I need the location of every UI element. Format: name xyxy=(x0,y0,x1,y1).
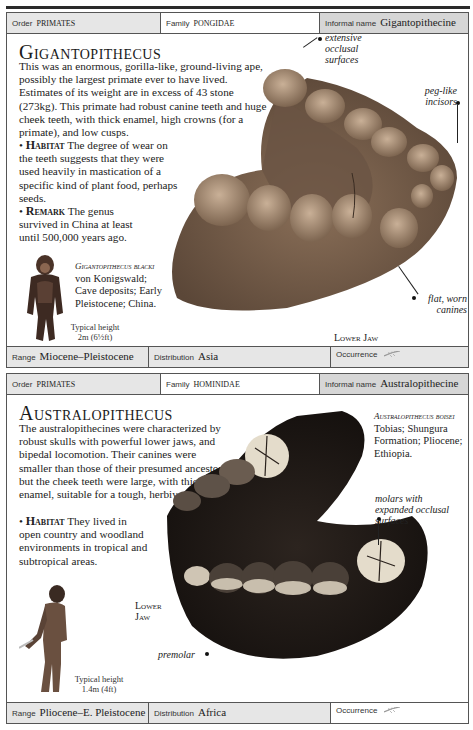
informal-name-value: Australopithecine xyxy=(380,377,458,389)
family-value: Hominidae xyxy=(194,377,240,389)
range-label: Range xyxy=(12,709,36,718)
order-value: Primates xyxy=(36,377,75,389)
remark-label: Remark xyxy=(26,204,65,218)
lower-jaw-label: Lower Jaw xyxy=(334,332,378,343)
informal-name-cell: Informal name Australopithecine xyxy=(319,374,468,394)
australopithecus-figure-image xyxy=(19,584,74,696)
distribution-value: Asia xyxy=(198,350,218,362)
typical-height: Typical height 2m (6½ft) xyxy=(65,322,125,342)
range-cell: Range Pliocene–E. Pleistocene xyxy=(7,703,148,723)
australopithecus-lower-jaw-image xyxy=(167,406,437,671)
header-row: Order Primates Family Pongidae Informal … xyxy=(7,13,468,34)
order-cell: Order Primates xyxy=(7,13,160,33)
occurrence-label: Occurrence xyxy=(336,706,377,715)
top-rule xyxy=(6,6,470,9)
card-australopithecus: Order Primates Family Hominidae Informal… xyxy=(6,373,469,724)
family-label: Family xyxy=(166,380,190,389)
distribution-cell: Distribution Africa xyxy=(148,703,330,723)
habitat-label: Habitat xyxy=(26,514,65,528)
annotation-molars-with-expanded-occlusal-surfaces: molars with expanded occlusal surfaces xyxy=(375,493,455,526)
informal-name-label: Informal name xyxy=(325,380,376,389)
occurrence-label: Occurrence xyxy=(336,350,377,359)
leader-line xyxy=(303,37,317,48)
annotation-dot xyxy=(205,652,209,656)
annotation-peg-like-incisors: peg-like incisors xyxy=(415,85,457,107)
family-label: Family xyxy=(166,19,190,28)
order-label: Order xyxy=(12,19,32,28)
family-value: Pongidae xyxy=(194,16,235,28)
distribution-value: Africa xyxy=(198,706,226,718)
species-info: Gigantopithecus blacki von Konigswald; C… xyxy=(75,260,170,310)
fern-icon xyxy=(384,351,400,357)
range-value: Miocene–Pleistocene xyxy=(40,350,134,362)
typical-height: Typical height 1.4m (4ft) xyxy=(69,674,129,694)
family-cell: Family Pongidae xyxy=(160,13,319,33)
family-cell: Family Hominidae xyxy=(160,374,319,394)
height-label: Typical height xyxy=(69,674,129,684)
informal-name-value: Gigantopithecine xyxy=(380,16,456,28)
gigantopithecus-figure-image xyxy=(19,253,69,345)
species-details: von Konigswald; Cave deposits; Early Ple… xyxy=(75,273,162,309)
footer-row: Range Pliocene–E. Pleistocene Distributi… xyxy=(7,702,468,723)
height-label: Typical height xyxy=(65,322,125,332)
footer-row: Range Miocene–Pleistocene Distribution A… xyxy=(7,346,468,367)
card-gigantopithecus: Order Primates Family Pongidae Informal … xyxy=(6,12,469,368)
annotation-premolar: premolar xyxy=(158,649,195,660)
order-value: Primates xyxy=(36,16,75,28)
annotation-flat-worn-canines: flat, worn canines xyxy=(412,293,467,315)
habitat-label: Habitat xyxy=(26,138,65,152)
annotation-extensive-occlusal-surfaces: extensive occlusal surfaces xyxy=(325,32,385,65)
order-label: Order xyxy=(12,380,32,389)
informal-name-cell: Informal name Gigantopithecine xyxy=(319,13,468,33)
distribution-label: Distribution xyxy=(154,709,194,718)
annotation-dot xyxy=(318,37,322,41)
species-name: Gigantopithecus blacki xyxy=(75,261,154,271)
habitat-section: • Habitat They lived in open country and… xyxy=(19,515,149,568)
range-cell: Range Miocene–Pleistocene xyxy=(7,347,148,367)
distribution-cell: Distribution Asia xyxy=(148,347,330,367)
fern-icon xyxy=(384,707,400,713)
header-row: Order Primates Family Hominidae Informal… xyxy=(7,374,468,395)
order-cell: Order Primates xyxy=(7,374,160,394)
distribution-label: Distribution xyxy=(154,353,194,362)
informal-name-label: Informal name xyxy=(325,19,376,28)
range-value: Pliocene–E. Pleistocene xyxy=(40,706,146,718)
remark-section: • Remark The genus survived in China at … xyxy=(19,205,144,245)
leader-line xyxy=(457,105,458,143)
lower-jaw-label: Lower Jaw xyxy=(135,600,165,622)
height-value: 2m (6½ft) xyxy=(65,332,125,342)
occurrence-cell: Occurrence xyxy=(330,347,468,367)
occurrence-cell: Occurrence xyxy=(330,703,468,723)
height-value: 1.4m (4ft) xyxy=(69,684,129,694)
habitat-section: • Habitat The degree of wear on the teet… xyxy=(19,139,179,205)
leader-line xyxy=(378,521,379,545)
range-label: Range xyxy=(12,353,36,362)
